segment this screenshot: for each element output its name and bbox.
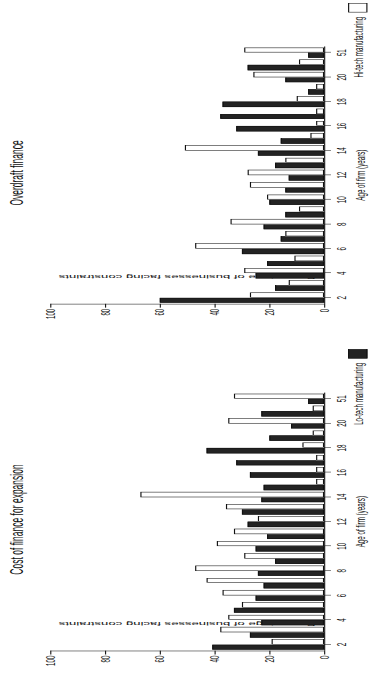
x-axis-tick-label: 4	[334, 618, 348, 621]
bar-overdraft-9-lo-tech	[286, 212, 324, 217]
x-axis-title-cost: Age of firm (years)	[354, 496, 368, 547]
bar-cost-of-finance-18-lo-tech	[206, 448, 324, 453]
bar-cost-of-finance-17-lo-tech	[236, 460, 324, 465]
y-axis-tick	[324, 304, 325, 308]
legend-swatch-lo-tech-icon	[348, 349, 367, 358]
legend-cost: Lo-tech manufacturing	[348, 349, 367, 425]
panel-cost-of-finance: Cost of finance for expansion Percentage…	[0, 346, 388, 693]
bar-cost-of-finance-5-hi-tech	[242, 602, 324, 607]
x-axis-tick-label: 51	[334, 395, 348, 402]
bar-overdraft-12-hi-tech	[247, 170, 324, 175]
y-axis-tick	[50, 304, 51, 308]
x-axis-tick	[324, 101, 331, 102]
bar-cost-of-finance-11-lo-tech	[267, 534, 325, 539]
bar-overdraft-2-lo-tech	[160, 298, 324, 303]
y-axis-tick	[160, 651, 161, 655]
x-axis-tick-label: 2	[334, 296, 348, 299]
bar-cost-of-finance-11-hi-tech	[234, 529, 324, 534]
y-axis-tick-label: 100	[43, 309, 57, 319]
plot-area-cost: Percentage of businesses facing constrai…	[50, 393, 324, 651]
x-axis-tick	[324, 398, 331, 399]
bar-overdraft-3-lo-tech	[275, 285, 324, 290]
x-axis-tick-label: 6	[334, 594, 348, 597]
x-axis-tick-label: 14	[334, 147, 348, 154]
x-axis-tick-label: 10	[334, 196, 348, 203]
bar-cost-of-finance-7-hi-tech	[206, 578, 324, 583]
x-axis-tick	[324, 521, 331, 522]
y-axis-tick	[50, 651, 51, 655]
bar-cost-of-finance-13-hi-tech	[226, 504, 325, 509]
x-axis-tick	[324, 644, 331, 645]
x-axis-tick-label: 18	[334, 444, 348, 451]
x-axis-tick-label: 10	[334, 543, 348, 550]
plot-area-overdraft: Percentage of businesses facing constrai…	[50, 46, 324, 303]
bar-overdraft-16-lo-tech	[236, 126, 324, 131]
bar-overdraft-8-lo-tech	[264, 224, 324, 229]
bar-cost-of-finance-3-hi-tech	[220, 627, 324, 632]
bar-cost-of-finance-51-hi-tech	[234, 394, 324, 399]
bar-overdraft-15-lo-tech	[280, 138, 324, 143]
y-axis-tick	[269, 651, 270, 655]
x-axis-tick	[324, 423, 331, 424]
x-axis-tick-label: 16	[334, 469, 348, 476]
bar-cost-of-finance-8-hi-tech	[195, 566, 324, 571]
bar-overdraft-2-hi-tech	[250, 292, 324, 297]
bar-cost-of-finance-4-hi-tech	[228, 615, 324, 620]
x-axis-tick	[324, 175, 331, 176]
bar-overdraft-6-hi-tech	[195, 243, 324, 248]
bar-overdraft-19-lo-tech	[308, 89, 324, 94]
y-axis-tick-label: 60	[153, 656, 167, 663]
bar-overdraft-16-hi-tech	[316, 121, 324, 126]
y-axis-line	[50, 304, 324, 305]
bar-overdraft-14-lo-tech	[258, 151, 324, 156]
bar-overdraft-5-lo-tech	[267, 261, 325, 266]
bar-overdraft-10-hi-tech	[267, 194, 325, 199]
bar-overdraft-9-hi-tech	[299, 207, 324, 212]
bar-overdraft-15-hi-tech	[310, 133, 324, 138]
bar-overdraft-4-lo-tech	[256, 273, 324, 278]
y-axis-tick	[215, 651, 216, 655]
bar-cost-of-finance-8-lo-tech	[258, 571, 324, 576]
bar-overdraft-51-lo-tech	[308, 53, 324, 58]
bar-cost-of-finance-3-lo-tech	[250, 632, 324, 637]
bar-cost-of-finance-19-hi-tech	[313, 430, 324, 435]
bar-cost-of-finance-6-lo-tech	[256, 595, 324, 600]
bar-overdraft-7-lo-tech	[280, 236, 324, 241]
bar-overdraft-8-hi-tech	[231, 219, 324, 224]
bar-overdraft-21-lo-tech	[247, 65, 324, 70]
bar-cost-of-finance-9-lo-tech	[275, 559, 324, 564]
x-axis-tick	[324, 273, 331, 274]
bar-cost-of-finance-15-hi-tech	[316, 480, 324, 485]
x-axis-tick	[324, 546, 331, 547]
bar-cost-of-finance-7-lo-tech	[264, 583, 324, 588]
bar-cost-of-finance-14-hi-tech	[141, 492, 324, 497]
bar-cost-of-finance-9-hi-tech	[245, 553, 324, 558]
bar-cost-of-finance-2-lo-tech	[212, 645, 324, 650]
bar-cost-of-finance-21-hi-tech	[313, 406, 324, 411]
bar-cost-of-finance-10-hi-tech	[217, 541, 324, 546]
y-axis-tick	[105, 304, 106, 308]
bar-overdraft-17-hi-tech	[316, 109, 324, 114]
bar-overdraft-18-hi-tech	[297, 96, 324, 101]
bar-overdraft-3-hi-tech	[289, 280, 325, 285]
x-axis-tick	[324, 447, 331, 448]
bar-overdraft-10-lo-tech	[269, 200, 324, 205]
x-axis-tick-label: 8	[334, 569, 348, 572]
bar-cost-of-finance-14-lo-tech	[261, 497, 324, 502]
x-axis-tick-label: 12	[334, 518, 348, 525]
x-axis-tick	[324, 150, 331, 151]
y-axis-tick-label: 40	[208, 656, 222, 663]
bar-overdraft-12-lo-tech	[289, 175, 325, 180]
legend-label-lo-tech: Lo-tech manufacturing	[351, 363, 365, 425]
legend-swatch-hi-tech-icon	[348, 3, 367, 12]
bar-overdraft-14-hi-tech	[184, 145, 324, 150]
y-axis-tick	[105, 651, 106, 655]
x-axis-tick-label: 16	[334, 123, 348, 130]
panel-title-cost: Cost of finance for expansion	[7, 346, 28, 693]
bar-overdraft-7-hi-tech	[286, 231, 324, 236]
x-axis-tick	[324, 595, 331, 596]
bar-cost-of-finance-19-lo-tech	[269, 436, 324, 441]
x-axis-tick	[324, 619, 331, 620]
x-axis-tick-label: 18	[334, 98, 348, 105]
y-axis-tick-label: 20	[262, 656, 276, 663]
